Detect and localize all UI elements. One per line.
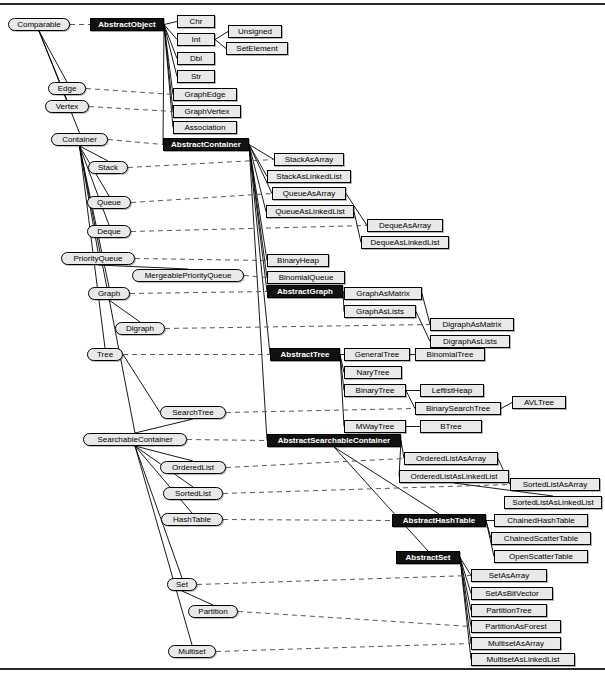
class-node-chainedhashtable[interactable]: ChainedHashTable: [494, 514, 588, 527]
class-node-stackaslinkedlist[interactable]: StackAsLinkedList: [267, 170, 351, 183]
class-node-digraphasmatrix[interactable]: DigraphAsMatrix: [430, 318, 514, 331]
node-label: AbstractTree: [281, 351, 330, 359]
class-node-chainedscattertable[interactable]: ChainedScatterTable: [491, 532, 591, 545]
interface-node-edge[interactable]: Edge: [48, 82, 86, 95]
class-node-multisetaslinkedlist[interactable]: MultisetAsLinkedList: [471, 653, 575, 666]
node-label: MWayTree: [356, 423, 395, 431]
class-node-graphedge[interactable]: GraphEdge: [173, 88, 237, 101]
class-node-digraphaslists[interactable]: DigraphAsLists: [430, 335, 510, 348]
class-node-stackasarray[interactable]: StackAsArray: [274, 153, 344, 166]
class-node-binarysearchtree[interactable]: BinarySearchTree: [415, 402, 501, 415]
class-node-leftistheap[interactable]: LeftistHeap: [420, 384, 484, 397]
node-label: BinomialTree: [427, 351, 474, 359]
interface-node-searchablecontainer[interactable]: SearchableContainer: [83, 433, 187, 446]
interface-node-priorityqueue[interactable]: PriorityQueue: [61, 252, 135, 265]
node-label: Association: [185, 124, 226, 132]
interface-node-deque[interactable]: Deque: [87, 225, 131, 238]
class-node-setasbitvector[interactable]: SetAsBitVector: [471, 587, 553, 600]
class-node-dequeasarray[interactable]: DequeAsArray: [367, 219, 443, 232]
interface-node-sortedlist[interactable]: SortedList: [163, 487, 223, 500]
abstract-node-abstracttree[interactable]: AbstractTree: [270, 348, 340, 361]
interface-node-multiset[interactable]: Multiset: [168, 645, 216, 658]
realization-edge: [135, 259, 267, 261]
interface-node-stack[interactable]: Stack: [88, 161, 128, 174]
class-node-unsigned[interactable]: Unsigned: [228, 25, 282, 38]
class-node-graphasmatrix[interactable]: GraphAsMatrix: [344, 287, 422, 300]
node-label: SearchTree: [172, 409, 214, 417]
class-node-narytree[interactable]: NaryTree: [344, 366, 402, 379]
class-node-binomialqueue[interactable]: BinomialQueue: [267, 271, 345, 284]
abstract-node-abstractgraph[interactable]: AbstractGraph: [267, 285, 343, 298]
node-label: PartitionTree: [486, 607, 532, 615]
inheritance-edge: [135, 446, 193, 461]
node-label: NaryTree: [356, 369, 389, 377]
class-node-setelement[interactable]: SetElement: [226, 42, 288, 55]
inheritance-edge: [501, 403, 512, 409]
top-rule: [0, 3, 605, 5]
class-node-avltree[interactable]: AVLTree: [512, 396, 566, 409]
node-label: GraphVertex: [185, 108, 230, 116]
node-label: AbstractContainer: [171, 141, 241, 149]
node-label: BinaryHeap: [277, 257, 319, 265]
interface-node-queue[interactable]: Queue: [87, 196, 131, 209]
abstract-node-abstractsearchablecontainer[interactable]: AbstractSearchableContainer: [267, 434, 401, 447]
class-node-orderedlistaslinkedlist[interactable]: OrderedListAsLinkedList: [399, 470, 509, 483]
inheritance-edge: [109, 300, 140, 322]
class-node-binaryheap[interactable]: BinaryHeap: [267, 254, 329, 267]
interface-node-container[interactable]: Container: [51, 133, 108, 146]
class-node-dbl[interactable]: Dbl: [177, 52, 215, 65]
inheritance-edge: [422, 294, 430, 325]
interface-node-searchtree[interactable]: SearchTree: [160, 406, 226, 419]
class-node-openscattertable[interactable]: OpenScatterTable: [494, 550, 588, 563]
interface-node-comparable[interactable]: Comparable: [8, 18, 70, 31]
interface-node-graph[interactable]: Graph: [88, 287, 130, 300]
abstract-node-abstracthashtable[interactable]: AbstractHashTable: [392, 514, 486, 527]
class-node-int[interactable]: Int: [177, 33, 215, 46]
interface-node-mergeablepriorityqueue[interactable]: MergeablePriorityQueue: [132, 269, 244, 282]
interface-node-tree[interactable]: Tree: [87, 348, 123, 361]
class-node-chr[interactable]: Chr: [177, 15, 215, 28]
node-label: SetAsArray: [489, 572, 529, 580]
interface-node-orderedlist[interactable]: OrderedList: [160, 461, 226, 474]
node-label: Comparable: [17, 21, 61, 29]
class-node-queueasarray[interactable]: QueueAsArray: [272, 187, 346, 200]
class-node-btree[interactable]: BTree: [420, 420, 482, 433]
node-label: PartitionAsForest: [485, 623, 546, 631]
interface-node-set[interactable]: Set: [167, 578, 197, 591]
node-label: StackAsArray: [285, 156, 333, 164]
inheritance-edge: [164, 25, 173, 128]
class-node-partitionasforest[interactable]: PartitionAsForest: [471, 620, 561, 633]
class-node-str[interactable]: Str: [177, 70, 215, 83]
interface-node-digraph[interactable]: Digraph: [115, 322, 165, 335]
node-label: Deque: [97, 228, 121, 236]
node-label: Container: [62, 136, 97, 144]
node-label: Chr: [190, 18, 203, 26]
class-node-dequeaslinkedlist[interactable]: DequeAsLinkedList: [361, 236, 449, 249]
realization-edge: [187, 440, 267, 441]
abstract-node-abstractset[interactable]: AbstractSet: [396, 551, 460, 564]
abstract-node-abstractobject[interactable]: AbstractObject: [90, 18, 164, 31]
class-node-partitiontree[interactable]: PartitionTree: [471, 604, 547, 617]
class-node-setasarray[interactable]: SetAsArray: [471, 569, 547, 582]
node-label: Unsigned: [238, 28, 272, 36]
abstract-node-abstractcontainer[interactable]: AbstractContainer: [163, 138, 249, 151]
class-node-binarytree[interactable]: BinaryTree: [344, 384, 406, 397]
class-node-generaltree[interactable]: GeneralTree: [344, 348, 410, 361]
class-node-graphaslists[interactable]: GraphAsLists: [344, 305, 416, 318]
class-node-queueaslinkedlist[interactable]: QueueAsLinkedList: [266, 205, 354, 218]
interface-node-hashtable[interactable]: HashTable: [161, 513, 223, 526]
class-node-association[interactable]: Association: [173, 121, 237, 134]
realization-edge: [130, 292, 267, 294]
inheritance-edge: [406, 391, 415, 409]
node-label: Tree: [97, 351, 113, 359]
interface-node-vertex[interactable]: Vertex: [45, 100, 89, 113]
class-node-orderedlistasarray[interactable]: OrderedListAsArray: [404, 452, 498, 465]
interface-node-partition[interactable]: Partition: [188, 605, 238, 618]
class-node-sortedlistaslinkedlist[interactable]: SortedListAsLinkedList: [504, 496, 602, 509]
class-node-binomialtree[interactable]: BinomialTree: [415, 348, 485, 361]
class-node-multisetasarray[interactable]: MultisetAsArray: [471, 637, 561, 650]
class-node-graphvertex[interactable]: GraphVertex: [173, 105, 241, 118]
node-label: BinarySearchTree: [426, 405, 490, 413]
class-node-mwaytree[interactable]: MWayTree: [344, 420, 406, 433]
class-node-sortedlistasarray[interactable]: SortedListAsArray: [510, 478, 600, 491]
